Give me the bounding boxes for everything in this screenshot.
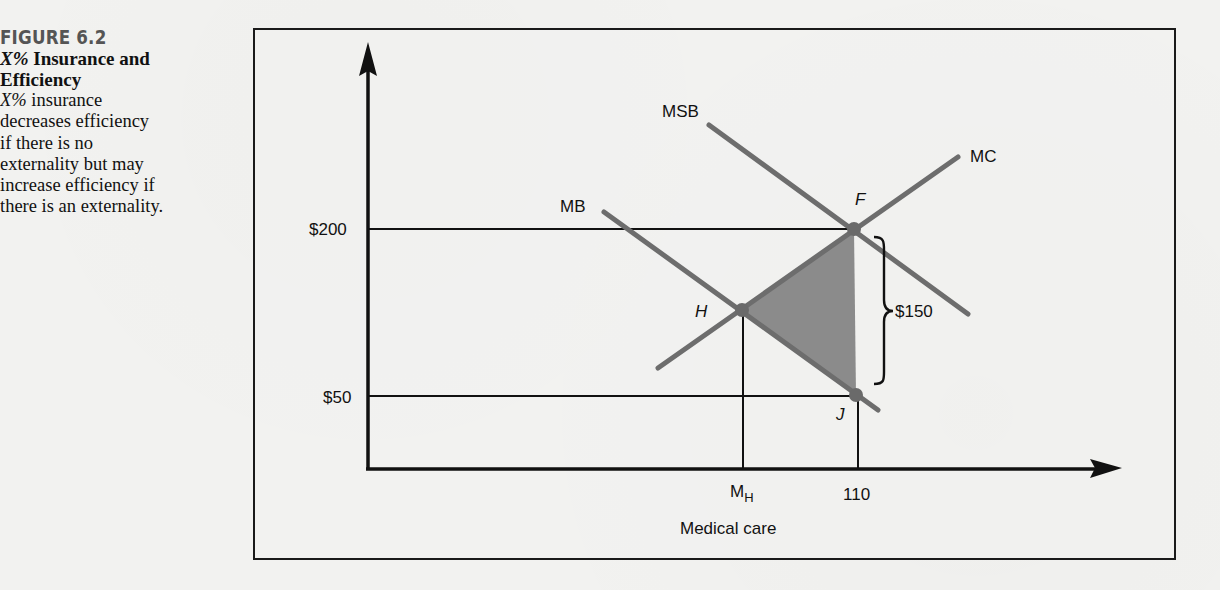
- point-h-label: H: [695, 302, 708, 321]
- economics-diagram: MSB MB MC F H J $200 $50 $150 MH 110 Med…: [0, 0, 1220, 590]
- y-tick-50: $50: [323, 388, 351, 407]
- x-axis-arrow-icon: [1090, 459, 1122, 478]
- mc-label: MC: [970, 147, 996, 166]
- brace-value-label: $150: [895, 302, 933, 321]
- shaded-triangle: [742, 229, 856, 395]
- x-tick-mh-main: M: [730, 482, 744, 501]
- msb-label: MSB: [662, 102, 699, 121]
- y-axis-arrow-icon: [359, 42, 377, 76]
- point-f: [847, 222, 861, 236]
- point-h: [735, 303, 749, 317]
- x-tick-110: 110: [843, 485, 870, 504]
- point-j-label: J: [835, 405, 845, 424]
- y-tick-200: $200: [309, 220, 347, 239]
- x-axis-label: Medical care: [680, 519, 776, 538]
- point-j: [849, 388, 863, 402]
- mb-label: MB: [560, 197, 586, 216]
- point-f-label: F: [855, 190, 867, 209]
- x-tick-mh-sub: H: [744, 490, 753, 505]
- x-tick-mh: MH: [730, 482, 754, 505]
